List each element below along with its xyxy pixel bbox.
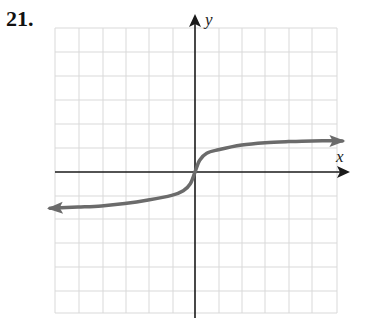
- x-axis-label: x: [335, 147, 344, 166]
- graph: x y: [0, 0, 367, 336]
- function-curve: [50, 141, 343, 208]
- y-axis-label: y: [203, 10, 213, 29]
